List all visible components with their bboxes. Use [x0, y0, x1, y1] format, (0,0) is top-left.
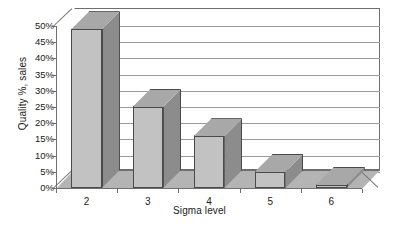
- y-axis-tick-label: 50%: [20, 21, 54, 31]
- bar: [71, 8, 120, 188]
- plot-area: 23456: [56, 8, 380, 188]
- bar: [194, 8, 243, 188]
- y-axis-tick-mark: [52, 42, 57, 43]
- y-axis-tick-mark: [52, 139, 57, 140]
- y-axis-tick-label: 5%: [20, 167, 54, 177]
- y-axis-tick-labels: 50%45%40%35%30%25%20%15%10%5%0%: [20, 0, 54, 228]
- x-axis-tick-label: 2: [67, 196, 107, 207]
- y-axis-tick-mark: [52, 58, 57, 59]
- bar-front-face: [316, 185, 347, 188]
- x-axis-tick-mark: [56, 189, 57, 193]
- bar-front-face: [255, 172, 286, 188]
- y-axis-tick-mark: [52, 172, 57, 173]
- y-axis-tick-label: 15%: [20, 134, 54, 144]
- y-axis-tick-label: 25%: [20, 102, 54, 112]
- y-axis-tick-mark: [52, 91, 57, 92]
- x-axis-tick-label: 4: [189, 196, 229, 207]
- bar-side-face: [102, 11, 120, 188]
- y-axis-tick-mark: [52, 26, 57, 27]
- x-axis-tick-label: 6: [311, 196, 351, 207]
- y-axis-tick-mark: [52, 107, 57, 108]
- bar-front-face: [194, 136, 225, 188]
- bar-front-face: [133, 107, 164, 188]
- y-axis-tick-mark: [52, 188, 57, 189]
- x-axis-tick-mark: [362, 189, 363, 193]
- x-axis-tick-mark: [117, 189, 118, 193]
- y-axis-tick-label: 20%: [20, 118, 54, 128]
- x-axis-tick-label: 5: [250, 196, 290, 207]
- bar: [255, 8, 304, 188]
- y-axis-tick-label: 40%: [20, 53, 54, 63]
- x-axis-tick-label: 3: [128, 196, 168, 207]
- x-axis-tick-mark: [301, 189, 302, 193]
- y-axis-tick-label: 0%: [20, 183, 54, 193]
- bar: [133, 8, 182, 188]
- bar-chart: Quality %, sales Sigma level 50%45%40%35…: [0, 0, 399, 228]
- bar: [316, 8, 365, 188]
- y-axis-tick-label: 45%: [20, 37, 54, 47]
- y-axis-tick-mark: [52, 123, 57, 124]
- x-axis-line: [56, 188, 362, 189]
- y-axis-tick-label: 35%: [20, 70, 54, 80]
- y-axis-tick-label: 10%: [20, 151, 54, 161]
- y-axis-tick-mark: [52, 156, 57, 157]
- bar-front-face: [71, 29, 102, 188]
- x-axis-tick-mark: [178, 189, 179, 193]
- y-axis-tick-label: 30%: [20, 86, 54, 96]
- y-axis-tick-mark: [52, 75, 57, 76]
- x-axis-tick-mark: [240, 189, 241, 193]
